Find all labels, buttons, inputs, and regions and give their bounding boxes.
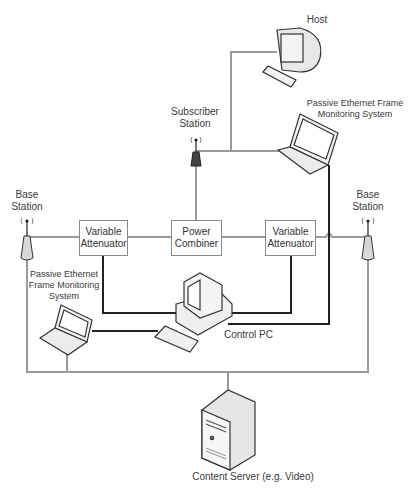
link-att-bs-right xyxy=(316,234,365,238)
control-pc-label: Control PC xyxy=(224,329,284,341)
host-label: Host xyxy=(302,14,332,26)
variable-attenuator-right: Variable Attenuator xyxy=(265,220,316,256)
content-server-label: Content Server (e.g. Video) xyxy=(188,471,318,483)
variable-attenuator-left: Variable Attenuator xyxy=(79,220,128,256)
subscriber-station-label: Subscriber Station xyxy=(165,106,225,130)
base-station-left-icon xyxy=(21,218,33,260)
monitor-bottom-label: Passive Ethernet Frame Monitoring System xyxy=(24,269,104,302)
top-laptop-icon xyxy=(278,114,338,174)
power-combiner: Power Combiner xyxy=(171,220,222,256)
link-att-right-pc xyxy=(230,256,291,313)
bottom-laptop-icon xyxy=(40,305,92,355)
host-computer-icon xyxy=(263,28,321,87)
base-station-right-label: Base Station xyxy=(346,189,390,213)
base-station-right-icon xyxy=(362,218,374,260)
content-server-icon xyxy=(202,390,255,470)
link-att-left-pc xyxy=(103,256,178,313)
base-station-left-label: Base Station xyxy=(5,189,49,213)
monitor-top-label: Passive Ethernet Frame Monitoring System xyxy=(300,98,410,120)
